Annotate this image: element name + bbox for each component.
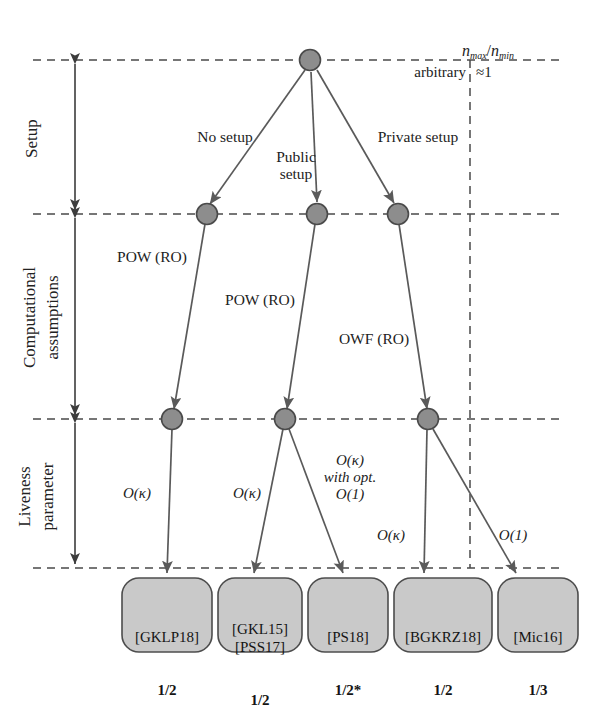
result-box-gkl15-pss17[interactable]: [GKL15] [PSS17] 1/2: [218, 586, 302, 709]
edge-label-o-kappa-1: O(κ): [108, 485, 166, 502]
row-label-assumptions-text: assumptions: [43, 275, 62, 359]
result-box-bgkrz18-value: 1/2: [433, 682, 452, 698]
edge-o-kappa-1: [167, 429, 172, 573]
row-label-setup: Setup: [22, 64, 41, 214]
result-box-bgkrz18-refs: [BGKRZ18]: [394, 629, 492, 647]
result-box-ps18-refs: [PS18]: [308, 629, 388, 647]
row-label-computational-line2: assumptions: [43, 233, 62, 403]
row-label-liveness-line1: Liveness: [15, 412, 34, 582]
result-box-mic16[interactable]: [Mic16] 1/3: [498, 594, 578, 709]
edge-label-o-kappa-3: O(κ): [362, 527, 420, 544]
edge-label-pow-ro-mid: POW (RO): [208, 291, 312, 308]
ratio-right-value: ≈1: [476, 64, 536, 81]
edge-pow-ro-mid: [287, 224, 315, 409]
row-label-liveness-text: Liveness: [15, 466, 34, 526]
row-label-setup-line1: Setup: [22, 119, 41, 158]
edge-label-o-one: O(1): [484, 527, 542, 544]
node-root: [300, 50, 321, 71]
result-box-gkl15-pss17-refs: [GKL15] [PSS17]: [218, 621, 302, 656]
row-label-computational-text: Computational: [20, 267, 39, 368]
edge-label-owf-ro-right: OWF (RO): [320, 330, 428, 347]
node-pow-mid: [275, 409, 296, 430]
edge-label-no-setup: No setup: [170, 128, 280, 145]
node-public-setup: [307, 204, 328, 225]
edge-label-pow-ro-left: POW (RO): [100, 248, 204, 265]
node-owf-right: [418, 409, 439, 430]
result-box-gkl15-pss17-value: 1/2: [250, 692, 269, 708]
row-label-parameter-text: parameter: [38, 463, 57, 531]
ratio-left-value: arbitrary: [384, 64, 466, 81]
node-pow-left: [162, 409, 183, 430]
edge-label-o-kappa-with-opt: O(κ) with opt. O(1): [305, 452, 395, 502]
edge-o-one: [433, 429, 516, 573]
edge-owf-ro-right: [399, 224, 427, 409]
result-box-mic16-value: 1/3: [528, 682, 547, 698]
ratio-n-max: nmax: [462, 42, 487, 59]
row-label-liveness-line2: parameter: [38, 412, 57, 582]
result-box-gklp18-value: 1/2: [157, 682, 176, 698]
result-box-ps18-value: 1/2*: [335, 682, 362, 698]
edge-label-private-setup: Private setup: [358, 128, 478, 145]
node-no-setup: [197, 204, 218, 225]
edge-label-o-kappa-2: O(κ): [218, 485, 276, 502]
result-box-bgkrz18[interactable]: [BGKRZ18] 1/2: [394, 594, 492, 709]
assumption-edges: [174, 224, 427, 409]
edge-label-public-setup: Public setup: [258, 148, 334, 183]
result-box-mic16-refs: [Mic16]: [498, 629, 578, 647]
result-box-gklp18[interactable]: [GKLP18] 1/2: [122, 594, 212, 709]
row-label-computational-line1: Computational: [20, 233, 39, 403]
result-box-ps18[interactable]: [PS18] 1/2*: [308, 594, 388, 709]
ratio-n-min: nmin: [491, 42, 514, 59]
edge-o-kappa-3: [424, 429, 427, 573]
node-private-setup: [388, 204, 409, 225]
result-box-gklp18-refs: [GKLP18]: [122, 629, 212, 647]
